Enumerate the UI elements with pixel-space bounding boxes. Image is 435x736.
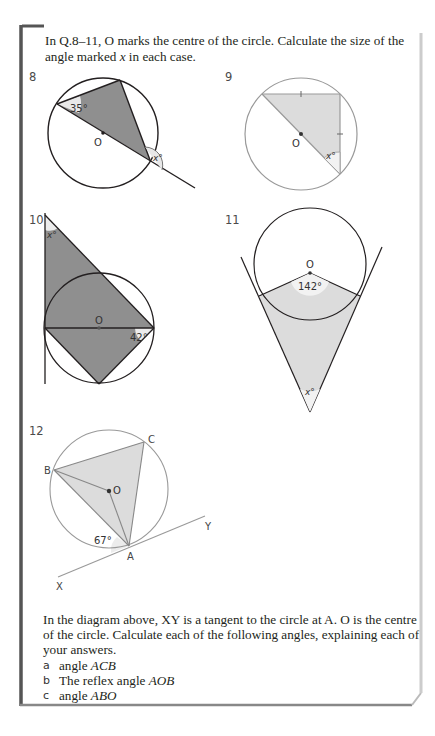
q12-label-O: O [113,485,121,496]
q12-angle-67: 67° [94,535,112,546]
part-prefix: angle [59,688,91,703]
part-label: c [43,688,59,703]
part-angle: ABO [91,688,117,703]
q12-label-Y: Y [204,521,212,532]
q12-question-text: In the diagram above, XY is a tangent to… [43,612,423,703]
q12-paragraph: In the diagram above, XY is a tangent to… [43,612,423,658]
q12-label-A: A [127,551,134,562]
q12-part-a: a angle ACB [43,658,423,673]
q12-label-C: C [148,434,155,445]
part-text: angle ABO [59,688,117,703]
q12-part-b: b The reflex angle AOB [43,673,423,688]
part-angle: ACB [91,658,116,673]
part-prefix: The reflex angle [59,673,149,688]
q12-label-X: X [56,581,63,592]
q12-label-B: B [44,465,51,476]
part-label: a [43,658,59,673]
part-label: b [43,673,59,688]
part-prefix: angle [59,658,91,673]
part-text: angle ACB [59,658,116,673]
part-angle: AOB [149,673,175,688]
q12-part-c: c angle ABO [43,688,423,703]
part-text: The reflex angle AOB [59,673,174,688]
